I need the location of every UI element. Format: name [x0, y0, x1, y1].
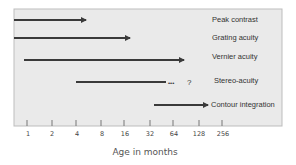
- x-axis-tick-labels: 1 2 4 8 16 32 64 128 256: [26, 130, 229, 138]
- contour-integration-label: Contour integration: [211, 100, 275, 109]
- tick-label: 2: [50, 130, 54, 138]
- tick-label: 32: [146, 130, 154, 138]
- tick-label: 1: [26, 130, 30, 138]
- peak-contrast-label: Peak contrast: [212, 15, 259, 24]
- stereo-question-mark: ?: [187, 78, 192, 87]
- tick-label: 16: [121, 130, 129, 138]
- tick-label: 4: [75, 130, 79, 138]
- development-timeline-chart: Peak contrast Grating acuity Vernier acu…: [0, 0, 296, 165]
- x-axis-title: Age in months: [112, 147, 178, 157]
- vernier-acuity-label: Vernier acuity: [212, 52, 258, 61]
- stereo-dots: •••: [168, 80, 174, 86]
- tick-label: 256: [217, 130, 229, 138]
- tick-label: 128: [193, 130, 205, 138]
- tick-label: 8: [100, 130, 104, 138]
- tick-label: 64: [170, 130, 178, 138]
- stereo-acuity-label: Stereo-acuity: [214, 76, 258, 85]
- grating-acuity-label: Grating acuity: [212, 33, 259, 42]
